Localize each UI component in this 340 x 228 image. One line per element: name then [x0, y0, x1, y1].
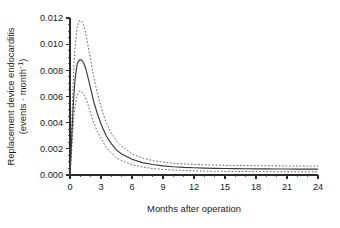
- y-tick-label: 0.004: [40, 118, 63, 128]
- chart-figure: 0.0000.0020.0040.0060.0080.0100.012 0369…: [0, 0, 340, 228]
- x-tick-label: 15: [220, 182, 230, 192]
- x-axis-title: Months after operation: [147, 203, 241, 214]
- x-tick-label: 12: [189, 182, 199, 192]
- x-tick-label: 0: [67, 182, 72, 192]
- x-tick-label: 24: [313, 182, 323, 192]
- y-tick-label: 0.010: [40, 39, 63, 49]
- x-tick-label: 3: [98, 182, 103, 192]
- x-tick-labels: 03691215182124: [67, 182, 323, 192]
- y-tick-label: 0.008: [40, 66, 63, 76]
- y-tick-label: 0.002: [40, 144, 63, 154]
- data-curves: [70, 21, 318, 175]
- x-axis-ticks: [70, 175, 318, 179]
- y-axis-title-line1: Replacement device endocarditis: [5, 27, 16, 165]
- y-tick-label: 0.000: [40, 170, 63, 180]
- y-tick-labels: 0.0000.0020.0040.0060.0080.0100.012: [40, 13, 63, 180]
- hazard-curve-chart: 0.0000.0020.0040.0060.0080.0100.012 0369…: [0, 0, 340, 228]
- x-tick-label: 6: [129, 182, 134, 192]
- y-tick-label: 0.012: [40, 13, 63, 23]
- y-axis-title-line2: (events · month−1): [17, 59, 29, 135]
- y-tick-label: 0.006: [40, 92, 63, 102]
- x-tick-label: 18: [251, 182, 261, 192]
- curve-series-2: [70, 91, 318, 175]
- y-axis-ticks: [66, 18, 70, 175]
- curve-series-0: [70, 21, 318, 175]
- curve-series-1: [70, 60, 318, 175]
- x-tick-label: 21: [282, 182, 292, 192]
- x-tick-label: 9: [160, 182, 165, 192]
